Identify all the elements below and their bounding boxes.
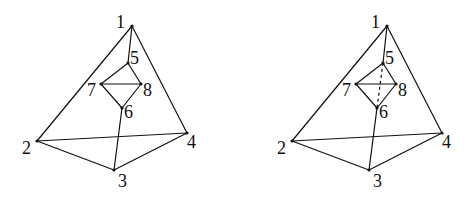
diagram-canvas: 12345678 12345678 <box>0 0 474 199</box>
vertex-7 <box>99 82 102 85</box>
vertex-2 <box>35 139 38 142</box>
vertex-label-3: 3 <box>373 171 382 191</box>
vertex-label-1: 1 <box>371 12 380 32</box>
edge-2-3 <box>292 141 369 170</box>
edge-5-7 <box>356 63 383 84</box>
edge-1-4 <box>387 26 442 133</box>
vertex-label-3: 3 <box>118 171 127 191</box>
edge-3-4 <box>114 133 187 170</box>
vertex-label-4: 4 <box>187 132 196 152</box>
vertex-1 <box>130 24 133 27</box>
edge-2-3 <box>37 141 114 170</box>
vertex-label-4: 4 <box>442 132 451 152</box>
vertex-label-7: 7 <box>87 80 96 100</box>
vertex-1 <box>385 24 388 27</box>
edge-1-4 <box>132 26 187 133</box>
edge-3-6 <box>114 108 122 170</box>
vertex-label-1: 1 <box>116 12 125 32</box>
vertex-label-8: 8 <box>398 80 407 100</box>
vertex-label-8: 8 <box>143 80 152 100</box>
edge-2-4 <box>292 133 442 141</box>
vertex-label-6: 6 <box>124 102 133 122</box>
edge-3-6 <box>369 108 377 170</box>
vertex-3 <box>367 168 370 171</box>
vertex-label-5: 5 <box>130 48 139 68</box>
vertex-3 <box>112 168 115 171</box>
vertex-label-2: 2 <box>277 138 286 158</box>
edge-7-6 <box>356 84 377 108</box>
edge-3-4 <box>369 133 442 170</box>
edge-2-4 <box>37 133 187 141</box>
vertex-label-6: 6 <box>379 102 388 122</box>
vertex-7 <box>354 82 357 85</box>
figure-left: 12345678 <box>22 12 196 191</box>
figure-right: 12345678 <box>277 12 451 191</box>
vertex-label-2: 2 <box>22 138 31 158</box>
vertex-label-5: 5 <box>385 48 394 68</box>
edge-7-6 <box>101 84 122 108</box>
edge-5-7 <box>101 63 128 84</box>
vertex-label-7: 7 <box>342 80 351 100</box>
vertex-2 <box>290 139 293 142</box>
